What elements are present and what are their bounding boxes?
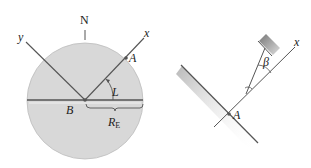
ceiling-block: [259, 34, 280, 55]
earth-figure: N y x A B L RE: [17, 13, 150, 159]
a-label: A: [128, 51, 137, 65]
north-label: N: [80, 13, 89, 27]
b-label: B: [66, 103, 74, 117]
angle-l-label: L: [111, 85, 119, 99]
a-label-right: A: [232, 108, 241, 122]
point-b: [83, 98, 87, 102]
x-axis-line-right: [214, 47, 295, 127]
x-label-right: x: [293, 35, 300, 49]
wall-shading: [176, 66, 258, 150]
y-label: y: [17, 30, 24, 44]
beta-label: β: [262, 55, 269, 69]
wall-line: [181, 65, 258, 143]
diagram-canvas: N y x A B L RE x β A: [0, 0, 311, 168]
point-a-right: [227, 112, 231, 116]
point-a: [124, 56, 128, 60]
wall-figure: x β A: [176, 34, 300, 150]
x-label: x: [143, 26, 150, 40]
